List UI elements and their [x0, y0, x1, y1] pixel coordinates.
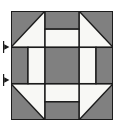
patch-edge-top-light [45, 29, 79, 47]
quilt-block [11, 11, 113, 120]
arrow-marker-upper-icon [3, 41, 11, 53]
patch-edge-bottom-dark [45, 102, 79, 120]
patch-edge-right-light [79, 47, 96, 83]
quilt-block-svg [11, 11, 113, 120]
arrow-marker-lower-icon [3, 74, 11, 86]
patch-edge-left-light [28, 47, 45, 83]
patch-edge-right-dark [96, 47, 113, 83]
patch-edge-top-dark [45, 11, 79, 29]
patch-center-dark [45, 47, 79, 83]
diagram-canvas [0, 0, 124, 134]
patch-edge-bottom-light [45, 84, 79, 102]
edge-marker-group [0, 0, 14, 134]
